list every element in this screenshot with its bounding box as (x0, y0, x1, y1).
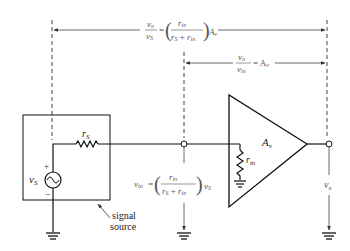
input-resistor-label: rin (246, 154, 256, 167)
amplifier-circuit-diagram: vo vS = ( rin rS + rin ) Av vo vin = Av … (0, 0, 350, 251)
input-node (181, 141, 187, 147)
svg-text:=: = (159, 25, 164, 35)
amplifier-gain-label: Av (261, 136, 273, 150)
source-voltage-label: vS (29, 173, 38, 187)
svg-text:vin: vin (237, 64, 246, 74)
output-ground-icon (322, 233, 336, 239)
svg-text:rS + rin: rS + rin (171, 32, 195, 42)
svg-text:vo: vo (147, 19, 154, 29)
ac-voltage-source (45, 172, 61, 188)
signal-source-box (23, 115, 110, 200)
svg-text:): ) (196, 173, 203, 196)
source-ground-icon (46, 233, 60, 239)
svg-text:= Av: = Av (253, 58, 269, 68)
input-resistor-ground-icon (234, 181, 246, 187)
svg-text:Av: Av (208, 27, 218, 37)
source-resistor-label: rS (82, 128, 90, 141)
svg-text:rin: rin (178, 18, 186, 28)
svg-text:vS: vS (146, 31, 153, 41)
input-resistor (237, 150, 243, 180)
source-plus-sign: + (44, 161, 49, 171)
amp-gain-equation: vo vin = Av (236, 52, 269, 74)
svg-text:vo: vo (238, 52, 245, 62)
svg-text:(: ( (154, 173, 161, 196)
output-node (326, 141, 332, 147)
overall-gain-equation: vo vS = ( rin rS + rin ) Av (145, 18, 218, 42)
signal-source-pointer (98, 204, 110, 218)
input-ground-icon (177, 233, 191, 239)
source-resistor (76, 141, 98, 147)
signal-source-label: signal source (110, 210, 138, 232)
svg-text:=: = (148, 179, 153, 189)
source-minus-sign: − (45, 189, 50, 199)
